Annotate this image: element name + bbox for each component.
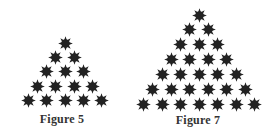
star-icon [229, 97, 244, 112]
star-icon [164, 52, 179, 67]
star-icon [182, 52, 197, 67]
star-icon [173, 67, 188, 82]
star-icon [136, 97, 151, 112]
star-icon [192, 37, 207, 52]
star-icon [155, 67, 170, 82]
star-icon [182, 22, 197, 37]
star-icon [164, 82, 179, 97]
star-icon [201, 22, 216, 37]
star-icon [182, 82, 197, 97]
star-icon [145, 82, 160, 97]
star-icon [219, 82, 234, 97]
star-icon [192, 97, 207, 112]
star-icon [201, 82, 216, 97]
star-icon [229, 67, 244, 82]
star-icon [155, 97, 170, 112]
star-icon [210, 67, 225, 82]
star-icon [210, 37, 225, 52]
star-icon [192, 8, 207, 23]
figure-7: Figure 7 [0, 0, 273, 135]
star-icon [247, 97, 262, 112]
star-icon [219, 52, 234, 67]
star-icon [173, 97, 188, 112]
star-icon [173, 37, 188, 52]
figure-7-caption: Figure 7 [176, 113, 220, 128]
star-icon [192, 67, 207, 82]
star-icon [201, 52, 216, 67]
star-icon [238, 82, 253, 97]
star-icon [210, 97, 225, 112]
